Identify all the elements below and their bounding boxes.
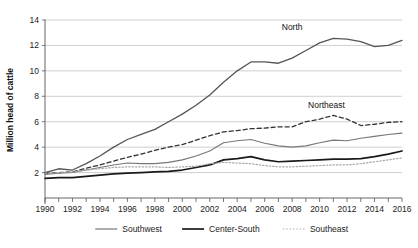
x-tick-label-1998: 1998	[145, 204, 164, 214]
x-tick-label-2010: 2010	[310, 204, 329, 214]
gridlines	[45, 20, 402, 173]
x-tick-label-2002: 2002	[200, 204, 219, 214]
x-tick-label-2004: 2004	[228, 204, 247, 214]
series-line-northeast	[45, 115, 402, 173]
legend-label-center-south: Center-South	[209, 224, 260, 234]
annotation-northeast: Northeast	[308, 100, 345, 110]
x-tick-label-2014: 2014	[365, 204, 384, 214]
chart-legend: SouthwestCenter-SouthSoutheast	[95, 224, 349, 234]
y-tick-label-4: 4	[34, 142, 39, 152]
x-tick-label-1994: 1994	[90, 204, 109, 214]
x-axis-tick-marks	[45, 198, 402, 202]
y-axis-title: Million head of cattle	[5, 68, 15, 152]
y-axis-tick-labels: 2468101214	[30, 15, 40, 178]
data-series-lines	[45, 38, 402, 178]
x-tick-label-2000: 2000	[173, 204, 192, 214]
y-tick-label-14: 14	[30, 15, 40, 25]
y-tick-label-6: 6	[34, 117, 39, 127]
annotation-north: North	[282, 22, 303, 32]
y-tick-label-8: 8	[34, 91, 39, 101]
y-tick-label-10: 10	[30, 66, 40, 76]
x-tick-label-2008: 2008	[283, 204, 302, 214]
x-tick-label-1990: 1990	[36, 204, 55, 214]
y-tick-label-12: 12	[30, 40, 40, 50]
series-line-north	[45, 38, 402, 172]
x-axis-tick-labels: 1990199219941996199820002002200420062008…	[36, 204, 412, 214]
legend-label-southwest: Southwest	[122, 224, 162, 234]
x-tick-label-2016: 2016	[393, 204, 412, 214]
x-tick-label-1996: 1996	[118, 204, 137, 214]
legend-label-southeast: Southeast	[310, 224, 349, 234]
x-tick-label-1992: 1992	[63, 204, 82, 214]
series-line-southwest	[45, 133, 402, 174]
x-tick-label-2012: 2012	[338, 204, 357, 214]
line-chart: 2468101214 19901992199419961998200020022…	[0, 0, 418, 248]
chart-canvas: 2468101214 19901992199419961998200020022…	[0, 0, 418, 248]
y-tick-label-2: 2	[34, 168, 39, 178]
x-tick-label-2006: 2006	[255, 204, 274, 214]
